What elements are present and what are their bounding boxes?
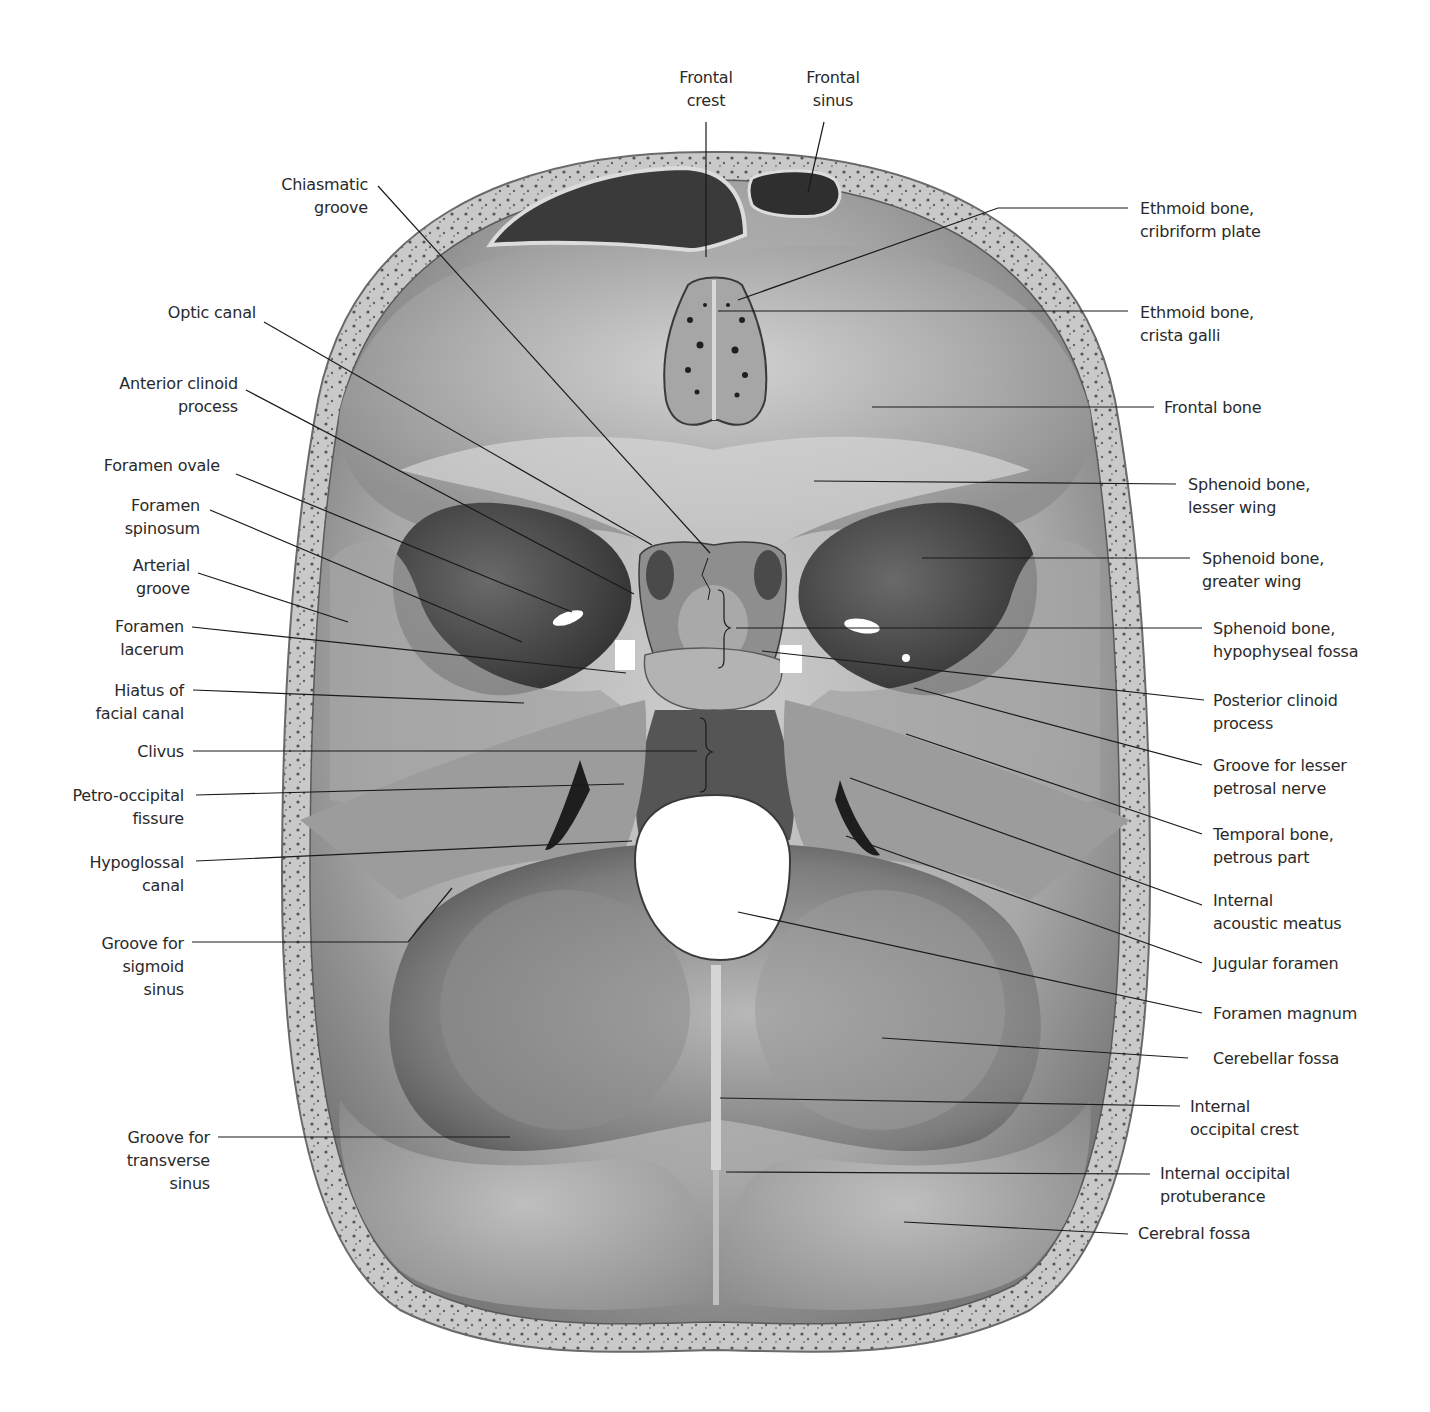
label-foramen-spinosum: Foramen spinosum [80,494,200,540]
label-sphenoid-lesser-wing: Sphenoid bone, lesser wing [1188,473,1358,519]
label-foramen-magnum: Foramen magnum [1213,1002,1403,1025]
label-sphenoid-hypophyseal-fossa: Sphenoid bone, hypophyseal fossa [1213,617,1403,663]
label-chiasmatic-groove: Chiasmatic groove [230,173,368,219]
label-frontal-bone: Frontal bone [1164,396,1324,419]
label-frontal-sinus: Frontal sinus [788,66,878,112]
label-hiatus-of-facial-canal: Hiatus of facial canal [60,679,184,725]
label-foramen-ovale: Foramen ovale [60,454,220,477]
label-groove-for-sigmoid-sinus: Groove for sigmoid sinus [60,932,184,1001]
label-arterial-groove: Arterial groove [80,554,190,600]
label-cerebellar-fossa: Cerebellar fossa [1213,1047,1403,1070]
label-petro-occipital-fissure: Petro-occipital fissure [40,784,184,830]
label-internal-occipital-crest: Internal occipital crest [1190,1095,1380,1141]
label-hypoglossal-canal: Hypoglossal canal [40,851,184,897]
label-groove-lesser-petrosal-nerve: Groove for lesser petrosal nerve [1213,754,1403,800]
label-frontal-crest: Frontal crest [662,66,750,112]
skull-base-diagram: Frontal crest Frontal sinus Chiasmatic g… [0,0,1430,1412]
label-ethmoid-cribriform-plate: Ethmoid bone, cribriform plate [1140,197,1320,243]
cerebellar-fossa-right [755,890,1005,1130]
cerebellar-fossa-left [440,890,690,1130]
label-ethmoid-crista-galli: Ethmoid bone, crista galli [1140,301,1320,347]
label-internal-occipital-protuberance: Internal occipital protuberance [1160,1162,1350,1208]
label-foramen-lacerum: Foramen lacerum [70,615,184,661]
label-internal-acoustic-meatus: Internal acoustic meatus [1213,889,1403,935]
frontal-sinus-right [749,171,840,217]
label-groove-for-transverse-sinus: Groove for transverse sinus [90,1126,210,1195]
label-anterior-clinoid-process: Anterior clinoid process [80,372,238,418]
label-sphenoid-greater-wing: Sphenoid bone, greater wing [1202,547,1372,593]
label-cerebral-fossa: Cerebral fossa [1138,1222,1328,1245]
foramen-lacerum-right [780,645,802,673]
label-jugular-foramen: Jugular foramen [1213,952,1403,975]
label-optic-canal: Optic canal [120,301,256,324]
label-clivus: Clivus [80,740,184,763]
foramen-lacerum-left [615,640,635,670]
label-temporal-petrous-part: Temporal bone, petrous part [1213,823,1403,869]
label-posterior-clinoid-process: Posterior clinoid process [1213,689,1403,735]
